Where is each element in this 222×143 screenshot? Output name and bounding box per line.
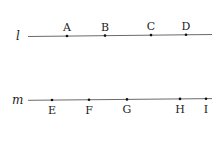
- point-B: [104, 34, 107, 37]
- line-name-label: m: [12, 93, 23, 107]
- point-label-C: C: [147, 20, 155, 33]
- point-label-I: I: [204, 103, 208, 116]
- point-label-E: E: [48, 104, 56, 117]
- point-I: [205, 97, 208, 100]
- point-label-B: B: [101, 21, 109, 34]
- point-label-D: D: [182, 20, 191, 33]
- point-label-A: A: [62, 21, 72, 34]
- point-G: [126, 98, 129, 101]
- line-m: mEFGHI: [12, 93, 212, 117]
- point-H: [179, 98, 182, 101]
- point-label-H: H: [175, 103, 185, 116]
- two-lines-diagram: lABCDmEFGHI: [0, 0, 222, 143]
- point-A: [66, 35, 69, 38]
- line-l-segment: [28, 35, 212, 37]
- line-l: lABCD: [16, 20, 212, 43]
- point-label-F: F: [85, 104, 93, 117]
- point-label-G: G: [123, 103, 132, 116]
- point-F: [88, 98, 91, 101]
- point-C: [150, 34, 153, 37]
- line-m-segment: [28, 99, 212, 101]
- line-name-label: l: [16, 29, 20, 43]
- point-E: [51, 99, 54, 102]
- point-D: [185, 34, 188, 37]
